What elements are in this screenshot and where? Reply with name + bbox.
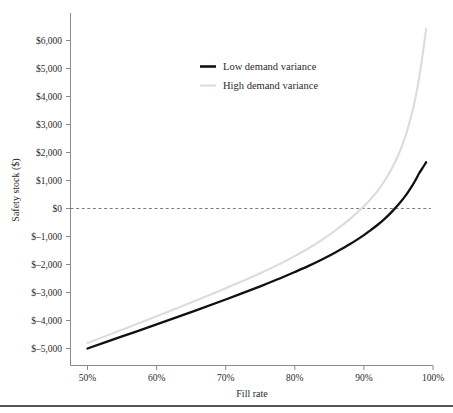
series-line-high-demand-variance	[88, 29, 427, 343]
y-tick-label: $1,000	[36, 176, 62, 186]
y-tick-label: $2,000	[36, 148, 62, 158]
x-tick-label: 60%	[148, 373, 166, 383]
x-tick-labels: 50% 60% 70% 80% 90% 100%	[79, 373, 444, 383]
y-tick-label: $0	[53, 204, 63, 214]
y-tick-label: $6,000	[36, 36, 62, 46]
y-tick-labels: $6,000 $5,000 $4,000 $3,000 $2,000 $1,00…	[31, 36, 62, 354]
y-tick-label: $–2,000	[31, 260, 62, 270]
y-tick-label: $–5,000	[31, 344, 62, 354]
series-line-low-demand-variance	[88, 162, 427, 348]
y-tick-label: $–3,000	[31, 288, 62, 298]
y-tick-label: $3,000	[36, 120, 62, 130]
x-tick-label: 50%	[79, 373, 97, 383]
x-axis-title: Fill rate	[236, 388, 268, 399]
x-tick-marks	[88, 366, 434, 371]
chart-legend: Low demand variance High demand variance	[200, 61, 318, 91]
x-tick-label: 70%	[217, 373, 235, 383]
y-tick-label: $–1,000	[31, 232, 62, 242]
legend-label-high-demand-variance: High demand variance	[223, 80, 318, 91]
line-chart-canvas: $6,000 $5,000 $4,000 $3,000 $2,000 $1,00…	[0, 0, 453, 413]
legend-label-low-demand-variance: Low demand variance	[223, 61, 317, 72]
x-tick-label: 90%	[355, 373, 373, 383]
x-tick-label: 80%	[286, 373, 304, 383]
chart-figure: $6,000 $5,000 $4,000 $3,000 $2,000 $1,00…	[0, 0, 453, 413]
y-tick-marks	[66, 41, 71, 349]
y-tick-label: $–4,000	[31, 316, 62, 326]
x-tick-label: 100%	[422, 373, 444, 383]
y-tick-label: $4,000	[36, 92, 62, 102]
y-axis-title: Safety stock ($)	[10, 158, 22, 221]
y-tick-label: $5,000	[36, 64, 62, 74]
